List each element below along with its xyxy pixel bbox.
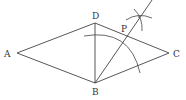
side-DC xyxy=(95,23,169,53)
side-BA xyxy=(17,53,95,83)
construction-arc-large xyxy=(84,35,140,73)
geometry-diagram: A D C B P xyxy=(0,0,186,100)
side-CB xyxy=(95,53,169,83)
label-A: A xyxy=(3,49,11,59)
label-D: D xyxy=(92,11,99,21)
bisector-ray-BP xyxy=(95,0,152,83)
arc-intersection-point xyxy=(138,16,140,18)
label-C: C xyxy=(173,49,180,59)
label-B: B xyxy=(92,87,99,97)
label-P: P xyxy=(121,24,127,34)
side-AD xyxy=(17,23,95,53)
